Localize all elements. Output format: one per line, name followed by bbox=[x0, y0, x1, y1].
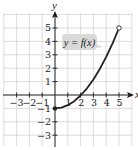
closed-endpoint bbox=[53, 106, 57, 110]
x-axis-label: x bbox=[134, 88, 138, 100]
y-tick-label: −2 bbox=[37, 116, 51, 127]
y-tick-label: 3 bbox=[45, 49, 51, 60]
x-tick-label: 5 bbox=[117, 97, 123, 108]
x-tick-label: 3 bbox=[91, 97, 97, 108]
y-tick-label: −1 bbox=[37, 103, 51, 114]
y-tick-label: 5 bbox=[45, 22, 51, 33]
grid bbox=[3, 13, 132, 146]
function-label: y = f(x) bbox=[62, 34, 103, 50]
x-tick-label: 4 bbox=[104, 97, 110, 108]
y-tick-label: 2 bbox=[45, 63, 51, 74]
y-tick-label: −3 bbox=[37, 130, 51, 141]
y-axis-label: y bbox=[51, 0, 57, 11]
y-tick-label: 1 bbox=[45, 76, 51, 87]
y-tick-label: 4 bbox=[45, 36, 51, 47]
x-tick-label: 2 bbox=[78, 97, 84, 108]
function-label-text: y = f(x) bbox=[63, 37, 96, 49]
function-graph: −3 −2 −1 1 2 3 4 5 5 4 3 2 1 −1 −2 −3 y … bbox=[0, 0, 138, 150]
open-endpoint bbox=[117, 26, 121, 30]
